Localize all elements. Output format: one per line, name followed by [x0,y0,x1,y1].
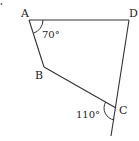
angle-label-C: 110° [76,109,100,120]
vertex-label-D: D [129,7,138,20]
edge-BC [44,67,116,108]
edge-AB [29,20,44,67]
edge-DC-extended [111,20,129,136]
angle-arc-C [104,102,114,120]
vertex-label-B: B [35,69,43,82]
vertex-label-A: A [20,7,30,20]
stray-dot [1,3,3,5]
quadrilateral-diagram: A B C D 70° 110° [0,0,139,141]
angle-label-A: 70° [42,29,60,40]
vertex-label-C: C [119,104,127,117]
